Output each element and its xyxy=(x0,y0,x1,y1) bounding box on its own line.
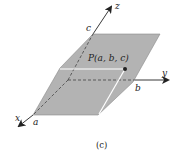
x-axis xyxy=(19,115,33,126)
z-axis xyxy=(93,7,111,34)
y-axis-label: y xyxy=(161,68,168,78)
point-p xyxy=(123,67,127,71)
z-axis-label: z xyxy=(114,1,120,11)
point-label: P(a, b, c) xyxy=(87,53,129,63)
figure-caption: (c) xyxy=(96,140,107,150)
plane xyxy=(33,34,160,115)
x-axis-label: x xyxy=(15,113,20,123)
c-intercept-label: c xyxy=(86,23,91,33)
a-intercept-label: a xyxy=(33,117,38,127)
b-intercept-label: b xyxy=(135,83,141,93)
coordinate-diagram: z y x c b a P(a, b, c) (c) xyxy=(0,0,178,156)
